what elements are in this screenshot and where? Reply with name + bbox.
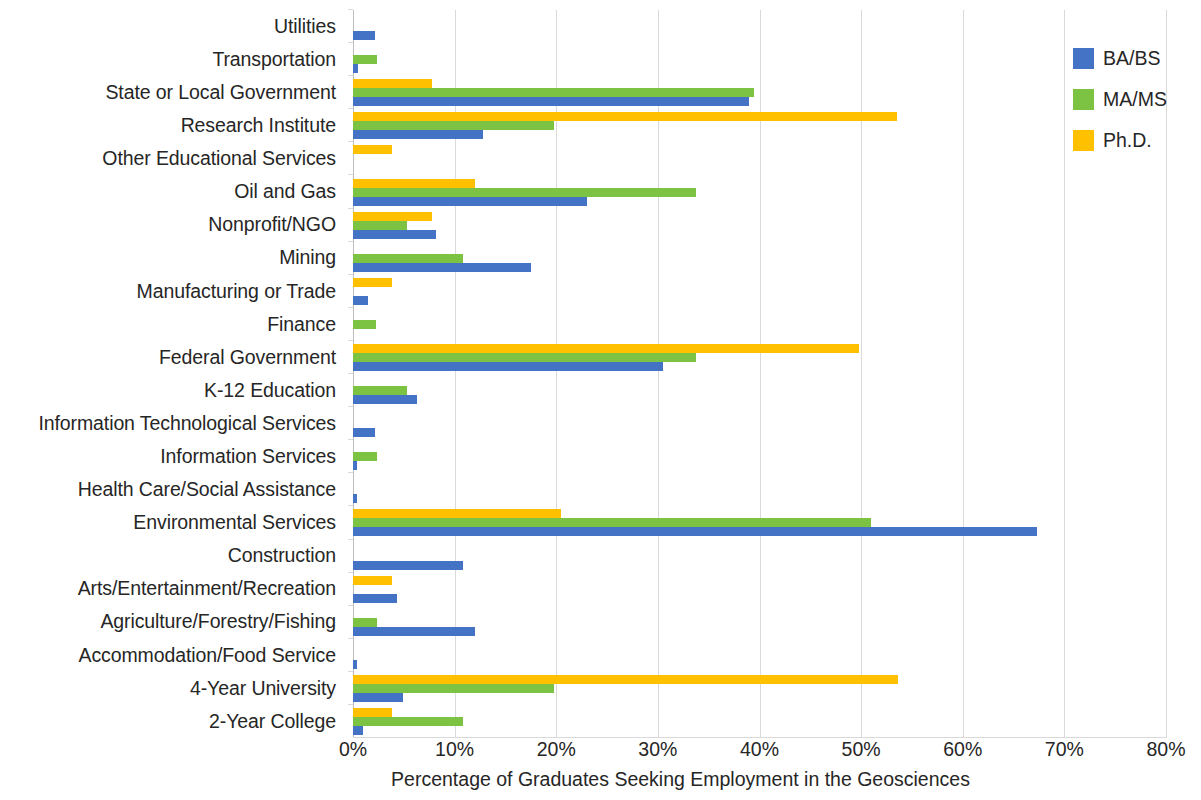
bar-groups (353, 10, 1166, 738)
bar-babs (353, 561, 463, 570)
bar-mams (353, 684, 554, 693)
axis-tick (348, 274, 353, 275)
legend-label: BA/BS (1103, 49, 1160, 69)
bar-mams (353, 254, 463, 263)
axis-tick (348, 75, 353, 76)
bar-mams (353, 55, 377, 64)
bar-mams (353, 188, 696, 197)
bar-babs (353, 97, 749, 106)
bar-group (353, 573, 1166, 606)
axis-tick (348, 572, 353, 573)
category-label: Other Educational Services (0, 142, 345, 175)
bar-phd (353, 576, 392, 585)
legend-swatch-icon (1073, 89, 1094, 110)
bar-group (353, 109, 1166, 142)
bar-babs (353, 31, 375, 40)
bar-phd (353, 79, 432, 88)
axis-tick (348, 539, 353, 540)
bar-babs (353, 263, 531, 272)
axis-tick (348, 141, 353, 142)
category-label: Agriculture/Forestry/Fishing (0, 606, 345, 639)
legend-item: MA/MS (1073, 79, 1193, 120)
bar-phd (353, 708, 392, 717)
axis-tick (348, 605, 353, 606)
bar-group (353, 705, 1166, 738)
bar-babs (353, 296, 368, 305)
bar-babs (353, 660, 357, 669)
category-label: Environmental Services (0, 506, 345, 539)
axis-tick (348, 439, 353, 440)
axis-tick (348, 472, 353, 473)
axis-tick (348, 671, 353, 672)
x-tick-label: 20% (537, 740, 576, 760)
axis-tick (348, 638, 353, 639)
bar-phd (353, 179, 475, 188)
axis-tick (348, 108, 353, 109)
bar-phd (353, 112, 897, 121)
bar-group (353, 76, 1166, 109)
category-label: Accommodation/Food Service (0, 639, 345, 672)
bar-group (353, 473, 1166, 506)
category-label: Mining (0, 242, 345, 275)
bar-phd (353, 344, 859, 353)
bar-group (353, 142, 1166, 175)
bar-phd (353, 278, 392, 287)
bar-group (353, 407, 1166, 440)
category-label: Manufacturing or Trade (0, 275, 345, 308)
bar-phd (353, 675, 898, 684)
legend-item: Ph.D. (1073, 120, 1193, 161)
bar-babs (353, 64, 358, 73)
axis-tick (348, 704, 353, 705)
legend-swatch-icon (1073, 48, 1094, 69)
legend-swatch-icon (1073, 130, 1094, 151)
bar-babs (353, 627, 475, 636)
bar-chart: UtilitiesTransportationState or Local Go… (0, 0, 1201, 800)
category-label: Health Care/Social Assistance (0, 473, 345, 506)
category-label: K-12 Education (0, 374, 345, 407)
bar-babs (353, 395, 417, 404)
x-tick-label: 30% (638, 740, 677, 760)
bar-babs (353, 594, 397, 603)
bar-babs (353, 130, 483, 139)
category-label: State or Local Government (0, 76, 345, 109)
bar-group (353, 10, 1166, 43)
bar-mams (353, 386, 407, 395)
axis-tick (348, 9, 353, 10)
axis-tick (348, 174, 353, 175)
bar-phd (353, 145, 392, 154)
bar-group (353, 275, 1166, 308)
axis-tick (348, 406, 353, 407)
category-label: Federal Government (0, 341, 345, 374)
bar-group (353, 606, 1166, 639)
x-tick-label: 80% (1146, 740, 1185, 760)
bar-mams (353, 320, 376, 329)
bar-babs (353, 428, 375, 437)
axis-tick (348, 373, 353, 374)
x-tick-label: 40% (740, 740, 779, 760)
category-label: 4-Year University (0, 672, 345, 705)
chart-legend: BA/BSMA/MSPh.D. (1073, 38, 1193, 161)
category-label: 2-Year College (0, 705, 345, 738)
bar-babs (353, 693, 403, 702)
category-label: Transportation (0, 43, 345, 76)
bar-babs (353, 197, 587, 206)
bar-mams (353, 452, 377, 461)
axis-tick (348, 505, 353, 506)
bar-mams (353, 353, 696, 362)
bar-mams (353, 618, 377, 627)
category-label: Nonprofit/NGO (0, 209, 345, 242)
bar-phd (353, 509, 561, 518)
x-axis-ticks: 0%10%20%30%40%50%60%70%80% (353, 740, 1166, 770)
bar-babs (353, 494, 357, 503)
category-label: Arts/Entertainment/Recreation (0, 573, 345, 606)
bar-group (353, 43, 1166, 76)
bar-babs (353, 527, 1037, 536)
bar-group (353, 440, 1166, 473)
x-axis-title: Percentage of Graduates Seeking Employme… (0, 770, 1201, 790)
bar-mams (353, 88, 754, 97)
axis-tick (348, 241, 353, 242)
bar-babs (353, 362, 663, 371)
x-tick-label: 60% (943, 740, 982, 760)
bar-mams (353, 221, 407, 230)
bar-babs (353, 726, 363, 735)
